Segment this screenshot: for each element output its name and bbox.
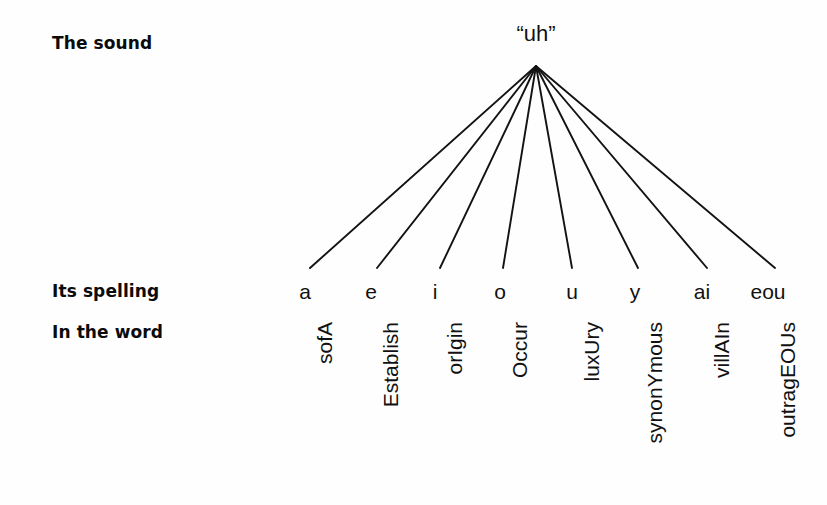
example-word-e: Establish (379, 322, 403, 407)
branch-line (536, 66, 572, 268)
example-word-o: Occur (508, 322, 532, 378)
example-word-i: orIgin (443, 322, 467, 375)
branch-line (503, 66, 536, 268)
spelling-u: u (566, 280, 578, 304)
branch-line (536, 66, 707, 268)
branch-line (536, 66, 775, 268)
example-word-y: synonYmous (643, 322, 667, 443)
spelling-o: o (494, 280, 506, 304)
example-word-u: luxUry (580, 322, 604, 382)
example-word-ai: villAIn (710, 322, 734, 378)
branch-lines (0, 0, 827, 505)
example-word-eou: outragEOUs (776, 322, 800, 438)
spelling-a: a (299, 280, 311, 304)
branch-line (377, 66, 536, 268)
spelling-eou: eou (750, 280, 785, 304)
branch-line (310, 66, 536, 268)
figure-canvas: The sound Its spelling In the word “uh” … (0, 0, 827, 505)
spelling-ai: ai (694, 280, 710, 304)
spelling-i: i (433, 280, 438, 304)
example-word-a: sofA (313, 322, 337, 364)
branch-line (440, 66, 536, 268)
spelling-e: e (365, 280, 377, 304)
spelling-y: y (630, 280, 641, 304)
